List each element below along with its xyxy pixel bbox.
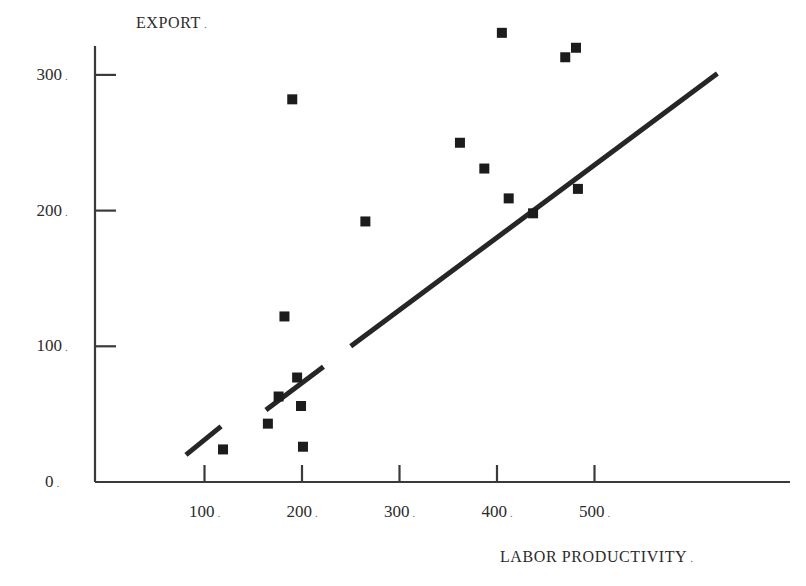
x-tick-label-200-text: 200 xyxy=(286,502,312,521)
x-tick-label-500-artifact: . xyxy=(604,507,610,519)
x-tick-label-300-text: 300 xyxy=(384,502,410,521)
x-tick-label-100-artifact: . xyxy=(214,507,220,519)
data-point-marker xyxy=(263,419,273,429)
y-tick-label-200-text: 200 xyxy=(36,201,62,220)
x-tick-label-100-text: 100 xyxy=(189,502,215,521)
y-tick-label-100-text: 100 xyxy=(36,336,62,355)
plot-area xyxy=(0,0,806,586)
x-tick-label-300: 300. xyxy=(384,502,415,522)
data-point-marker xyxy=(218,444,228,454)
data-point-marker xyxy=(504,193,514,203)
x-tick-label-200: 200. xyxy=(286,502,317,522)
y-tick-label-0: 0. xyxy=(45,472,59,492)
data-point-marker xyxy=(571,43,581,53)
y-tick-label-200-artifact: . xyxy=(62,206,68,218)
data-point-marker xyxy=(497,28,507,38)
data-point-marker xyxy=(287,94,297,104)
y-tick-label-0-text: 0 xyxy=(45,472,54,491)
trendline-segment xyxy=(186,426,221,454)
x-tick-label-500: 500. xyxy=(579,502,610,522)
data-point-marker xyxy=(360,216,370,226)
y-tick-label-300-artifact: . xyxy=(62,70,68,82)
data-points-group xyxy=(218,28,583,455)
data-point-marker xyxy=(279,311,289,321)
data-point-marker xyxy=(573,184,583,194)
x-tick-label-400-artifact: . xyxy=(507,507,513,519)
y-tick-label-300: 300. xyxy=(36,65,67,85)
scatter-plot-figure: EXPORT. LABOR PRODUCTIVITY. 0.100.200.30… xyxy=(0,0,806,586)
axes-group xyxy=(95,46,790,482)
y-tick-label-100: 100. xyxy=(36,336,67,356)
trendline-group xyxy=(186,74,717,455)
x-tick-label-200-artifact: . xyxy=(312,507,318,519)
data-point-marker xyxy=(298,442,308,452)
data-point-marker xyxy=(274,392,284,402)
data-point-marker xyxy=(296,401,306,411)
x-tick-label-500-text: 500 xyxy=(579,502,605,521)
x-tick-label-400-text: 400 xyxy=(481,502,507,521)
x-tick-label-400: 400. xyxy=(481,502,512,522)
data-point-marker xyxy=(292,373,302,383)
data-point-marker xyxy=(455,138,465,148)
x-tick-label-300-artifact: . xyxy=(409,507,415,519)
x-tick-label-100: 100. xyxy=(189,502,220,522)
data-point-marker xyxy=(479,164,489,174)
y-tick-label-0-artifact: . xyxy=(53,477,59,489)
y-tick-label-300-text: 300 xyxy=(36,65,62,84)
data-point-marker xyxy=(560,52,570,62)
data-point-marker xyxy=(528,208,538,218)
y-tick-label-100-artifact: . xyxy=(62,341,68,353)
y-tick-label-200: 200. xyxy=(36,201,67,221)
